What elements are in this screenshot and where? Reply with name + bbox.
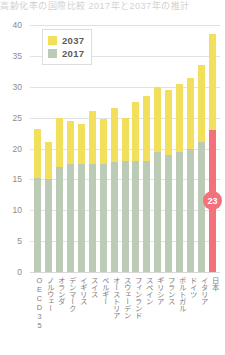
bar-segment-2037 xyxy=(78,124,85,164)
y-axis-tick-30: 30 xyxy=(0,82,22,92)
bar-segment-2037 xyxy=(111,108,118,162)
bar-segment-2037 xyxy=(34,129,41,178)
bar-segment-2037 xyxy=(89,111,96,163)
bar-segment-2037 xyxy=(154,87,161,152)
x-axis-label-イギリス: イギリス xyxy=(76,276,87,304)
bar-日本 xyxy=(209,34,216,272)
y-axis-tick-10: 10 xyxy=(0,205,22,215)
gridline-40 xyxy=(30,25,220,26)
x-axis-label-OECD35: OECD35 xyxy=(32,276,43,330)
y-axis-tick-40: 40 xyxy=(0,20,22,30)
bar-フランス xyxy=(165,90,172,272)
chart-container: 高齢化率の国際比較 2017年と2037年の推計 051015202530354… xyxy=(0,0,225,355)
bar-ベルギー xyxy=(100,119,107,272)
bar-OECD35 xyxy=(34,129,41,272)
bar-segment-2037 xyxy=(67,121,74,164)
bar-segment-2037 xyxy=(45,142,52,179)
y-axis-tick-25: 25 xyxy=(0,113,22,123)
bar-segment-2017 xyxy=(67,164,74,272)
y-axis-tick-0: 0 xyxy=(0,267,22,277)
bar-segment-2037 xyxy=(198,65,205,142)
y-axis-tick-20: 20 xyxy=(0,144,22,154)
bar-segment-2037 xyxy=(100,119,107,164)
bar-イタリア xyxy=(198,65,205,272)
chart-legend: 2037 2017 xyxy=(42,29,92,65)
bar-segment-2017 xyxy=(122,161,129,272)
bar-segment-2017 xyxy=(132,161,139,272)
x-axis-label-ポルトガル: ポルトガル xyxy=(174,276,185,311)
x-axis-label-オーストリア: オーストリア xyxy=(109,276,120,318)
bar-スイス xyxy=(89,111,96,272)
x-axis-label-ギリシア: ギリシア xyxy=(152,276,163,304)
bar-segment-2037 xyxy=(176,84,183,152)
bar-segment-2017 xyxy=(34,178,41,272)
bar-segment-2017 xyxy=(111,162,118,272)
bar-segment-2017 xyxy=(165,155,172,272)
legend-item-2037: 2037 xyxy=(48,34,84,47)
bar-フィンランド xyxy=(132,102,139,272)
bar-segment-2037 xyxy=(56,118,63,167)
x-axis-label-ドイツ: ドイツ xyxy=(185,276,196,297)
bar-デンマーク xyxy=(67,121,74,272)
x-axis-label-フィンランド: フィンランド xyxy=(130,276,141,318)
x-axis-label-スイス: スイス xyxy=(87,276,98,297)
y-axis-tick-35: 35 xyxy=(0,51,22,61)
bar-segment-2017 xyxy=(100,164,107,272)
x-axis-label-ノルウェー: ノルウェー xyxy=(43,276,54,311)
legend-label-2017: 2017 xyxy=(62,48,84,59)
bar-segment-2017 xyxy=(143,161,150,272)
bar-segment-2037 xyxy=(165,90,172,155)
bar-segment-2037 xyxy=(132,102,139,161)
y-axis-tick-5: 5 xyxy=(0,236,22,246)
x-axis-label-オランダ: オランダ xyxy=(54,276,65,304)
bar-segment-2017 xyxy=(187,149,194,273)
bar-segment-2017 xyxy=(154,152,161,272)
chart-title: 高齢化率の国際比較 2017年と2037年の推計 xyxy=(0,0,225,12)
legend-item-2017: 2017 xyxy=(48,47,84,60)
x-axis-label-日本: 日本 xyxy=(207,276,218,290)
y-axis-tick-15: 15 xyxy=(0,174,22,184)
x-axis-label-フランス: フランス xyxy=(163,276,174,304)
bar-segment-2017 xyxy=(78,164,85,272)
legend-label-2037: 2037 xyxy=(62,35,84,46)
bar-segment-2017 xyxy=(176,152,183,272)
bar-segment-2017 xyxy=(56,167,63,272)
bar-ギリシア xyxy=(154,87,161,272)
bar-ポルトガル xyxy=(176,84,183,272)
bar-オランダ xyxy=(56,118,63,272)
bar-segment-2037 xyxy=(187,78,194,149)
bar-オーストリア xyxy=(111,108,118,272)
x-axis-labels: OECD35ノルウェーオランダデンマークイギリススイスベルギーオーストリアスウェ… xyxy=(30,273,220,355)
bar-segment-2017 xyxy=(89,164,96,272)
bar-segment-2037 xyxy=(122,118,129,161)
bar-ドイツ xyxy=(187,78,194,273)
bar-スウェーデン xyxy=(122,118,129,272)
x-axis-label-スペイン: スペイン xyxy=(141,276,152,304)
x-axis-label-イタリア: イタリア xyxy=(196,276,207,304)
legend-swatch-2037 xyxy=(48,36,57,45)
x-axis-label-スウェーデン: スウェーデン xyxy=(120,276,131,318)
bar-segment-2017 xyxy=(45,179,52,272)
bar-ノルウェー xyxy=(45,142,52,272)
bar-segment-2037 xyxy=(143,96,150,161)
bar-スペイン xyxy=(143,96,150,272)
legend-swatch-2017 xyxy=(48,49,57,58)
bar-イギリス xyxy=(78,124,85,272)
bar-segment-2037 xyxy=(209,34,216,130)
x-axis-label-ベルギー: ベルギー xyxy=(98,276,109,304)
bar-segment-2017 xyxy=(198,142,205,272)
x-axis-label-デンマーク: デンマーク xyxy=(65,276,76,311)
